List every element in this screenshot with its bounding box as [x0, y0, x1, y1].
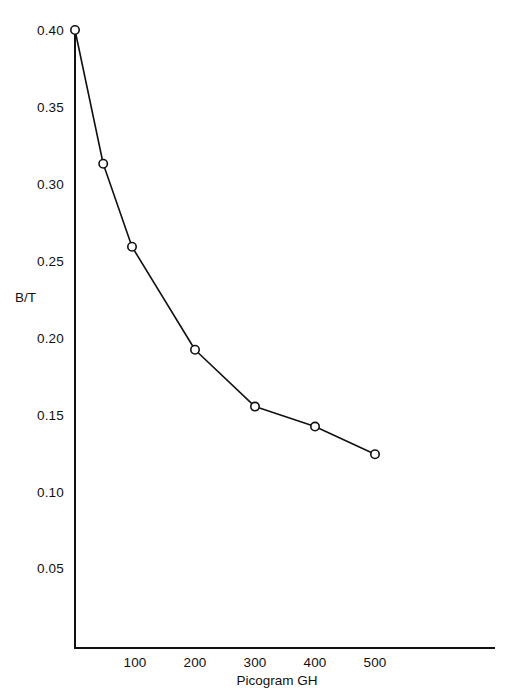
data-point-marker [311, 422, 319, 430]
y-tick-label-030: 0.30 [14, 177, 64, 192]
y-axis-title: B/T [15, 290, 36, 305]
x-tick-label-300: 300 [243, 655, 266, 670]
x-tick-label-100: 100 [123, 655, 146, 670]
y-tick-label-040: 0.40 [14, 23, 64, 38]
x-tick-label-200: 200 [183, 655, 206, 670]
x-tick-label-400: 400 [303, 655, 326, 670]
data-line [75, 30, 375, 454]
y-tick-label-005: 0.05 [14, 561, 64, 576]
data-point-marker [251, 402, 259, 410]
y-tick-label-015: 0.15 [14, 408, 64, 423]
data-point-marker [191, 346, 199, 354]
y-tick-label-035: 0.35 [14, 100, 64, 115]
data-point-marker [371, 450, 379, 458]
chart-figure: 0.40 0.35 0.30 0.25 0.20 0.15 0.10 0.05 … [0, 0, 509, 696]
data-point-marker [71, 26, 79, 34]
y-tick-label-020: 0.20 [14, 331, 64, 346]
x-tick-label-500: 500 [363, 655, 386, 670]
y-tick-label-010: 0.10 [14, 485, 64, 500]
plot-canvas [0, 0, 509, 696]
axis-lines [74, 28, 495, 648]
x-axis-title: Picogram GH [236, 673, 317, 688]
data-series-group [71, 26, 379, 459]
data-point-marker [99, 160, 107, 168]
data-markers [71, 26, 379, 459]
data-point-marker [128, 243, 136, 251]
y-tick-label-025: 0.25 [14, 254, 64, 269]
